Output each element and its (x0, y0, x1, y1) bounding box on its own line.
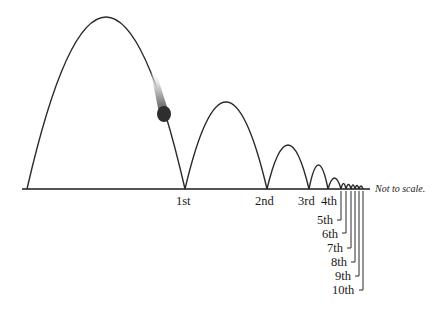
bounce-label-1: 1st (176, 194, 191, 208)
leader-9 (355, 191, 359, 276)
bounce-label-3: 3rd (298, 194, 315, 208)
leader-7 (347, 191, 351, 248)
bounce-label-6: 6th (322, 227, 339, 241)
not-to-scale-note: Not to scale. (374, 183, 425, 194)
ball-with-trail (151, 72, 171, 122)
bounce-label-2: 2nd (255, 194, 275, 208)
arc-2 (185, 102, 267, 189)
bounce-label-7: 7th (327, 241, 344, 255)
leader-10 (359, 191, 363, 290)
leader-8 (351, 191, 355, 262)
bounce-label-9: 9th (335, 269, 352, 283)
arc-6 (341, 184, 346, 190)
arc-3 (267, 145, 309, 189)
bouncing-ball-diagram: 1st 2nd 3rd 4th 5th 6th 7th 8th 9th 10th… (0, 0, 446, 312)
leader-6 (342, 191, 346, 233)
leader-5 (337, 191, 341, 220)
bounce-label-8: 8th (331, 255, 348, 269)
bounce-label-4: 4th (321, 194, 338, 208)
ball (157, 106, 171, 122)
trajectory-arcs (27, 17, 363, 189)
arc-7 (346, 185, 351, 190)
arc-4 (309, 165, 328, 189)
bounce-label-5: 5th (317, 213, 334, 227)
bounce-label-10: 10th (332, 283, 355, 297)
arc-5 (328, 178, 341, 189)
